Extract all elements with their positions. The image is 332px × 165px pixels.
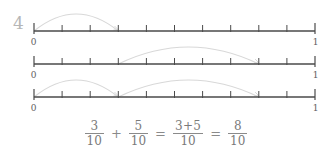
jump-arc: [118, 80, 258, 97]
axis-label-end: 1: [313, 103, 319, 113]
fraction-numerator: 5: [133, 120, 145, 133]
numberline-3: 01: [31, 80, 319, 113]
axis-label-start: 0: [31, 103, 37, 113]
fraction-numerator: 3+5: [173, 120, 203, 133]
plus-operator: +: [110, 127, 123, 140]
fraction-denominator: 10: [85, 134, 104, 147]
numberline-1: 01: [31, 14, 319, 47]
fraction-denominator: 10: [178, 134, 197, 147]
fraction-numerator: 8: [232, 120, 244, 133]
fraction-denominator: 10: [129, 134, 148, 147]
axis-label-end: 1: [313, 70, 319, 80]
fraction-denominator: 10: [228, 134, 247, 147]
fraction-numerator: 3: [88, 120, 100, 133]
equation: 3 10 + 5 10 = 3+5 10 = 8 10: [0, 120, 332, 147]
axis-label-start: 0: [31, 37, 37, 47]
equals-operator-1: =: [154, 127, 167, 140]
fraction-term-3: 3+5 10: [173, 120, 203, 147]
jump-arc: [34, 14, 118, 31]
equals-operator-2: =: [209, 127, 222, 140]
axis-label-start: 0: [31, 70, 37, 80]
jump-arc: [118, 47, 258, 64]
equation-row: 3 10 + 5 10 = 3+5 10 = 8 10: [83, 120, 250, 147]
fraction-term-4: 8 10: [228, 120, 247, 147]
numberline-figure: 4 010101 3 10 + 5 10 = 3+5 10 =: [0, 0, 332, 165]
fraction-term-2: 5 10: [129, 120, 148, 147]
numberline-2: 01: [31, 47, 319, 80]
jump-arc: [34, 80, 118, 97]
axis-label-end: 1: [313, 37, 319, 47]
fraction-term-1: 3 10: [85, 120, 104, 147]
